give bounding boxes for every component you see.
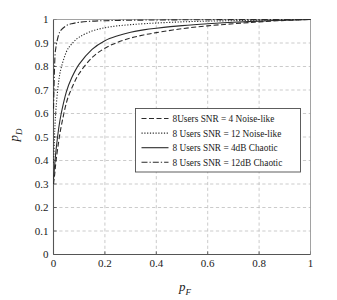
y-tick-label: 0.1 bbox=[35, 225, 49, 237]
y-tick-labels: 00.10.20.30.40.50.60.70.80.91 bbox=[35, 13, 49, 260]
svg-text:pF: pF bbox=[178, 279, 192, 297]
y-tick-label: 0.8 bbox=[35, 60, 49, 72]
y-tick-label: 0.2 bbox=[35, 201, 49, 213]
y-axis-title: pD bbox=[6, 128, 24, 143]
x-tick-label: 0 bbox=[51, 257, 57, 269]
roc-chart-figure: 00.20.40.60.81 00.10.20.30.40.50.60.70.8… bbox=[0, 0, 337, 300]
x-axis-title: pF bbox=[178, 279, 192, 297]
legend-label-1[interactable]: 8 Users SNR = 12 Noise-like bbox=[173, 129, 282, 139]
svg-text:pD: pD bbox=[6, 128, 24, 143]
x-tick-label: 1 bbox=[308, 257, 314, 269]
y-tick-label: 0.3 bbox=[35, 178, 49, 190]
legend-label-0[interactable]: 8Users SNR = 4 Noise-like bbox=[173, 114, 275, 124]
y-tick-label: 0 bbox=[43, 248, 49, 260]
legend-label-3[interactable]: 8 Users SNR = 12dB Chaotic bbox=[173, 158, 283, 168]
x-tick-label: 0.6 bbox=[201, 257, 215, 269]
y-tick-label: 0.5 bbox=[35, 131, 49, 143]
y-tick-label: 0.9 bbox=[35, 37, 49, 49]
chart-legend[interactable]: 8Users SNR = 4 Noise-like8 Users SNR = 1… bbox=[136, 109, 301, 173]
x-tick-labels: 00.20.40.60.81 bbox=[51, 257, 314, 269]
y-tick-label: 0.4 bbox=[35, 154, 49, 166]
y-tick-label: 1 bbox=[43, 13, 49, 25]
x-tick-label: 0.8 bbox=[252, 257, 266, 269]
chart-canvas: 00.20.40.60.81 00.10.20.30.40.50.60.70.8… bbox=[0, 0, 337, 300]
y-tick-label: 0.7 bbox=[35, 84, 49, 96]
x-tick-label: 0.4 bbox=[149, 257, 163, 269]
legend-label-2[interactable]: 8 Users SNR = 4dB Chaotic bbox=[173, 143, 278, 153]
y-tick-label: 0.6 bbox=[35, 107, 49, 119]
x-tick-label: 0.2 bbox=[98, 257, 112, 269]
